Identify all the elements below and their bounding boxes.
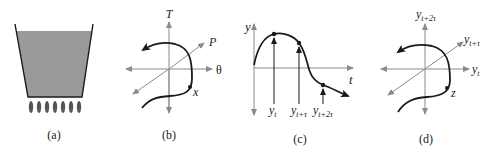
flame-icon [69,101,73,113]
label-t: T [166,7,174,21]
figure: (a) T P θ x (b) [0,0,495,154]
label-z: z [450,86,456,100]
caption-a: (a) [47,128,60,142]
sample-label-yt-2tau: yt+2τ [312,103,334,119]
sample-label-yt-tau: yt+τ [290,103,308,119]
sample-point [297,41,301,45]
panel-d: yt+2τ yt+τ yt z (d) [381,7,481,146]
axis-p-back [133,69,169,94]
liquid [17,31,92,97]
panel-b: T P θ x (b) [126,7,222,142]
axis-p [169,43,204,69]
flame-icon [37,101,41,113]
flame-icon [61,101,65,113]
label-y: y [243,19,251,34]
label-yttau: yt+τ [463,32,481,48]
sample-point [321,83,325,87]
caption-b: (b) [162,128,176,142]
state-point [188,85,192,89]
trajectory [142,43,192,108]
panel-a: (a) [15,24,93,142]
axis-yttau-back [388,69,425,95]
reconstructed-trajectory [398,45,450,112]
flame-icon [45,101,49,113]
label-theta: θ [216,63,222,77]
state-point [445,86,449,90]
label-t: t [349,72,353,87]
flame-icon [29,101,33,113]
caption-c: (c) [293,132,306,146]
panel-c: y t yt yt+τ yt+2τ (c) [243,19,353,146]
label-x: x [192,85,199,99]
flames [29,101,81,113]
label-p: P [208,35,217,49]
label-yt2tau: yt+2τ [415,7,437,23]
label-yt: yt [471,62,480,78]
sample-point [272,32,276,36]
sample-label-yt: yt [268,103,277,119]
flame-icon [77,101,81,113]
flame-icon [53,101,57,113]
caption-d: (d) [419,132,433,146]
